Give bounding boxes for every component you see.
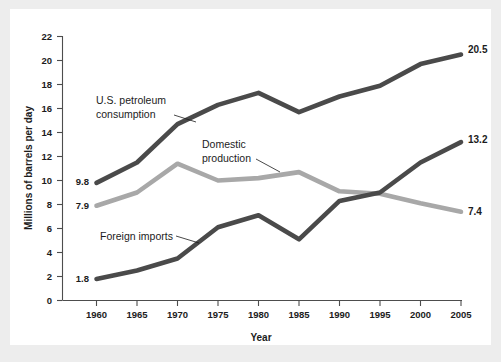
x-tick-label-1970: 1970: [167, 309, 188, 320]
start-label-imports: 1.8: [76, 273, 89, 284]
series-line-foreign-imports: [97, 142, 462, 279]
annotation-foreign-imports: Foreign imports: [100, 230, 199, 243]
annotation-imports-line1: Foreign imports: [100, 230, 173, 242]
end-label-imports: 13.2: [468, 134, 488, 145]
y-tick-label-22: 22: [41, 31, 52, 42]
x-tick-label-2005: 2005: [450, 309, 472, 320]
y-tick-label-6: 6: [47, 223, 52, 234]
x-tick-label-1975: 1975: [207, 309, 229, 320]
x-tick-label-1990: 1990: [329, 309, 350, 320]
y-tick-label-0: 0: [47, 295, 52, 306]
annotation-domestic-line2: production: [202, 152, 251, 164]
annotation-consumption-line2: consumption: [96, 108, 156, 120]
x-tick-label-1985: 1985: [288, 309, 310, 320]
y-tick-label-10: 10: [41, 175, 52, 186]
y-tick-label-4: 4: [47, 247, 53, 258]
annotation-imports-leader: [176, 236, 199, 243]
annotation-consumption-line1: U.S. petroleum: [96, 94, 166, 106]
y-axis-title: Millions of barrels per day: [23, 106, 34, 230]
x-tick-label-1980: 1980: [248, 309, 269, 320]
x-tick-label-2000: 2000: [410, 309, 431, 320]
y-tick-label-2: 2: [47, 271, 52, 282]
x-axis-tick-labels: 1960 1965 1970 1975 1980 1985 1990 1995 …: [86, 309, 472, 320]
x-tick-label-1995: 1995: [369, 309, 391, 320]
y-tick-label-18: 18: [41, 79, 52, 90]
x-tick-label-1960: 1960: [86, 309, 107, 320]
x-tick-label-1965: 1965: [126, 309, 148, 320]
y-axis-ticks: [57, 37, 63, 301]
annotation-domestic-leader: [256, 159, 280, 172]
y-axis-tick-labels: 0 2 4 6 8 10 12 14 16 18 20 22: [41, 31, 52, 306]
x-axis-ticks: [97, 301, 462, 307]
annotation-domestic-production: Domestic production: [202, 138, 280, 172]
line-chart: 0 2 4 6 8 10 12 14 16 18 20 22: [0, 0, 501, 362]
x-axis-title: Year: [250, 332, 271, 343]
end-label-domestic: 7.4: [468, 206, 482, 217]
start-label-consumption: 9.8: [76, 176, 89, 187]
figure-root: 0 2 4 6 8 10 12 14 16 18 20 22: [0, 0, 501, 362]
end-label-consumption: 20.5: [468, 44, 488, 55]
y-tick-label-8: 8: [47, 199, 52, 210]
y-tick-label-16: 16: [41, 103, 52, 114]
y-tick-label-14: 14: [41, 127, 52, 138]
start-label-domestic: 7.9: [76, 200, 89, 211]
y-tick-label-12: 12: [41, 151, 52, 162]
y-tick-label-20: 20: [41, 55, 52, 66]
annotation-domestic-line1: Domestic: [202, 138, 246, 150]
annotation-us-petroleum-consumption: U.S. petroleum consumption: [96, 94, 196, 122]
